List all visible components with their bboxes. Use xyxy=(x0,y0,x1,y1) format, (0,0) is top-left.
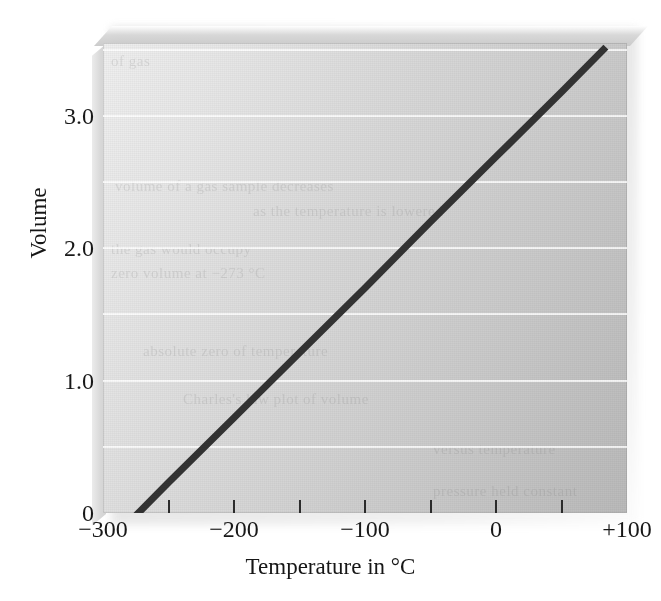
chart-figure: of gasvolume of a gas sample decreasesas… xyxy=(0,0,661,601)
series-line-volume-vs-temperature xyxy=(138,50,603,513)
x-axis-tick xyxy=(168,500,170,513)
x-axis-tick xyxy=(299,500,301,513)
y-axis-tick-label: 1.0 xyxy=(40,367,94,394)
data-series-layer xyxy=(103,43,627,513)
x-axis-tick xyxy=(233,500,235,513)
x-axis-tick-label: −100 xyxy=(340,516,390,543)
y-axis-title: Volume xyxy=(26,187,52,258)
x-axis-tick-label: 0 xyxy=(490,516,502,543)
plot-area: of gasvolume of a gas sample decreasesas… xyxy=(103,43,627,513)
x-axis-title: Temperature in °C xyxy=(0,554,661,580)
x-axis-tick xyxy=(430,500,432,513)
x-axis-tick-label: +100 xyxy=(602,516,652,543)
x-axis-tick-label: −200 xyxy=(209,516,259,543)
x-axis-tick xyxy=(561,500,563,513)
y-axis-tick-label: 3.0 xyxy=(40,102,94,129)
x-axis-tick xyxy=(495,500,497,513)
x-axis-tick xyxy=(364,500,366,513)
y-axis-tick-label: 0 xyxy=(40,500,94,527)
